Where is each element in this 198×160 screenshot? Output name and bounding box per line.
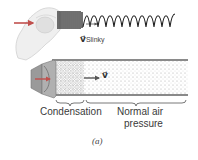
hand-illustration bbox=[16, 8, 60, 60]
figure-caption: (a) bbox=[92, 136, 103, 146]
slinky-expanded bbox=[83, 14, 175, 27]
slinky-compressed bbox=[58, 11, 82, 29]
velocity-subscript: Slinky bbox=[86, 36, 105, 43]
air-tube bbox=[52, 60, 188, 95]
velocity-slinky-label: v⃗Slinky bbox=[80, 34, 105, 44]
normal-pressure-label-line1: Normal air bbox=[117, 106, 163, 117]
velocity-tube-label: v⃗ bbox=[102, 70, 108, 80]
condensation-label: Condensation bbox=[40, 106, 102, 117]
normal-pressure-label-line2: pressure bbox=[124, 118, 163, 129]
